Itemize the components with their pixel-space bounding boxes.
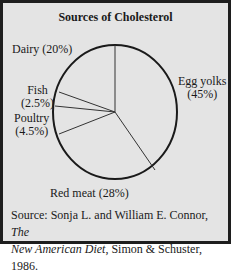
label-egg-yolks-pct: (45%) [178,88,226,101]
slice-divider-egg-redmeat [115,112,155,170]
source-book-title-1: The [11,225,29,239]
label-poultry-pct: (4.5%) [14,125,49,138]
label-fish: Fish (2.5%) [21,84,54,110]
label-dairy: Dairy (20%) [12,43,72,56]
source-book-title-2: New American Diet [11,242,105,256]
source-citation: Source: Sonja L. and William E. Connor, … [11,207,226,274]
slice-divider-redmeat-poultry [59,112,115,134]
label-egg-yolks: Egg yolks (45%) [178,75,226,101]
label-red-meat: Red meat (28%) [50,187,129,200]
source-prefix: Source: Sonja L. and William E. Connor, [11,208,208,222]
chart-frame: Sources of Cholesterol Dairy (20%) Egg y… [0,0,231,244]
label-fish-pct: (2.5%) [21,97,54,110]
label-poultry: Poultry (4.5%) [14,112,49,138]
